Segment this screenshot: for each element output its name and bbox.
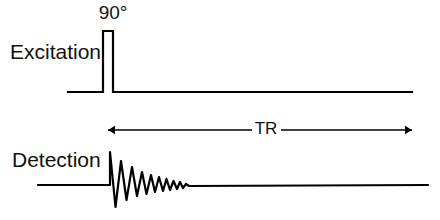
pulse-sequence-diagram: Excitation 90° TR Detection	[0, 0, 440, 220]
tr-interval-annotation: TR	[108, 119, 412, 138]
pulse-sequence-canvas: Excitation 90° TR Detection	[0, 0, 440, 220]
tr-label: TR	[255, 119, 278, 138]
excitation-row-label: Excitation	[10, 40, 101, 63]
flip-angle-label: 90°	[99, 2, 128, 23]
detection-row: Detection	[12, 148, 428, 207]
tr-arrowhead-left	[108, 126, 115, 135]
tr-arrowhead-right	[405, 126, 412, 135]
detection-row-label: Detection	[12, 148, 101, 171]
excitation-row: Excitation 90°	[10, 2, 412, 92]
excitation-waveform	[68, 31, 412, 92]
